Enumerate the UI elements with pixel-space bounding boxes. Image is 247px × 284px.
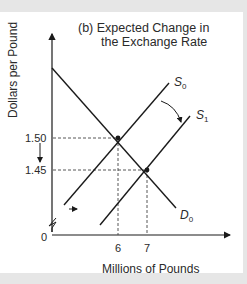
- equilibrium-point-new: [145, 168, 150, 173]
- chart-title-line2: the Exchange Rate: [101, 35, 207, 49]
- label-d0: D0: [180, 208, 193, 227]
- label-s0: S0: [174, 75, 186, 94]
- x-axis-label: Millions of Pounds: [102, 262, 199, 276]
- equilibrium-point-initial: [116, 136, 121, 141]
- label-s1: S1: [196, 108, 208, 127]
- guide-lines: [53, 138, 147, 235]
- x-tick-7: 7: [144, 241, 150, 255]
- origin-label: 0: [41, 230, 47, 244]
- y-tick-150: 1.50: [25, 131, 46, 145]
- y-axis-label: Dollars per Pound: [6, 22, 20, 118]
- y-tick-145: 1.45: [25, 163, 46, 177]
- chart-title-line1: (b) Expected Change in: [78, 21, 209, 35]
- shift-arrow-icon: [161, 101, 181, 122]
- supply-curve-s0: [64, 83, 169, 205]
- x-tick-6: 6: [115, 241, 121, 255]
